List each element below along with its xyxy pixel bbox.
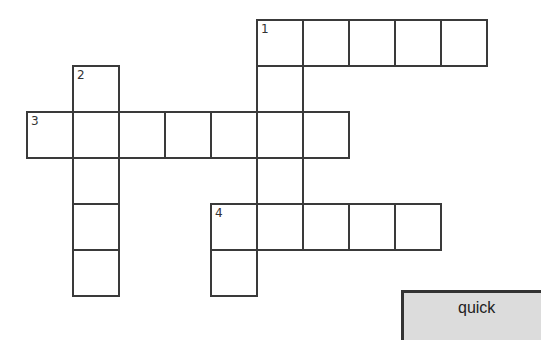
grid-cell-r4-c5[interactable] (256, 203, 304, 251)
grid-cell-r3-c5[interactable] (256, 157, 304, 205)
grid-cell-r5-c1[interactable] (72, 249, 120, 297)
grid-cell-r2-c2[interactable] (118, 111, 166, 159)
grid-cell-r2-c0[interactable]: 3 (26, 111, 74, 159)
clue-number: 1 (261, 22, 269, 36)
quick-button[interactable]: quick (401, 290, 541, 340)
quick-button-label: quick (458, 299, 495, 317)
grid-cell-r4-c1[interactable] (72, 203, 120, 251)
grid-cell-r3-c1[interactable] (72, 157, 120, 205)
grid-cell-r0-c8[interactable] (394, 19, 442, 67)
grid-cell-r1-c5[interactable] (256, 65, 304, 113)
grid-cell-r4-c7[interactable] (348, 203, 396, 251)
clue-number: 3 (31, 114, 39, 128)
clue-number: 4 (215, 206, 223, 220)
grid-cell-r4-c8[interactable] (394, 203, 442, 251)
grid-cell-r2-c6[interactable] (302, 111, 350, 159)
clue-number: 2 (77, 68, 85, 82)
grid-cell-r0-c5[interactable]: 1 (256, 19, 304, 67)
grid-cell-r1-c1[interactable]: 2 (72, 65, 120, 113)
grid-cell-r2-c3[interactable] (164, 111, 212, 159)
grid-cell-r5-c4[interactable] (210, 249, 258, 297)
grid-cell-r4-c4[interactable]: 4 (210, 203, 258, 251)
grid-cell-r0-c6[interactable] (302, 19, 350, 67)
grid-cell-r2-c5[interactable] (256, 111, 304, 159)
grid-cell-r2-c1[interactable] (72, 111, 120, 159)
grid-cell-r2-c4[interactable] (210, 111, 258, 159)
grid-cell-r4-c6[interactable] (302, 203, 350, 251)
grid-cell-r0-c7[interactable] (348, 19, 396, 67)
grid-cell-r0-c9[interactable] (440, 19, 488, 67)
